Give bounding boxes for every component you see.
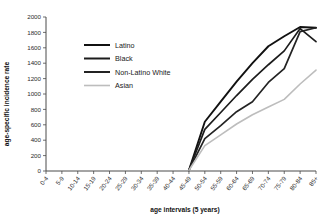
x-tick-label: 35-39: [145, 174, 161, 191]
x-tick-label: 10-14: [66, 174, 82, 191]
x-axis-ticks: 0-45-910-1415-1920-2425-2930-3435-3940-4…: [38, 171, 319, 192]
x-tick-label: 50-54: [193, 174, 209, 191]
x-tick-label: 45-49: [177, 174, 193, 191]
y-tick-label: 1400: [27, 59, 41, 66]
series-line-latino: [189, 27, 316, 170]
legend-label-latino: Latino: [115, 41, 135, 50]
x-tick-label: 15-19: [82, 174, 98, 191]
y-tick-label: 1600: [27, 44, 41, 51]
x-tick-label: 0-4: [38, 174, 49, 186]
x-tick-label: 65-69: [240, 174, 256, 191]
line-chart: 0200400600800100012001400160018002000 0-…: [0, 0, 329, 221]
y-tick-label: 400: [31, 136, 42, 143]
chart-legend: LatinoBlackNon-Latino WhiteAsian: [84, 41, 171, 91]
y-tick-label: 2000: [27, 13, 41, 20]
x-tick-label: 40-44: [161, 174, 177, 191]
x-axis-title: age intervals (5 years): [150, 206, 219, 214]
y-tick-label: 0: [38, 167, 42, 174]
x-tick-label: 20-24: [98, 174, 114, 191]
y-tick-label: 600: [31, 121, 42, 128]
series-line-asian: [189, 70, 316, 170]
x-tick-label: 80-84: [288, 174, 304, 191]
legend-label-non-latino-white: Non-Latino White: [115, 68, 171, 77]
x-tick-label: 25-29: [113, 174, 129, 191]
y-axis-ticks: 0200400600800100012001400160018002000: [27, 13, 46, 174]
y-axis-title: age-specific incidence rate: [3, 62, 11, 147]
y-tick-label: 1800: [27, 29, 41, 36]
y-tick-label: 800: [31, 106, 42, 113]
chart-container: 0200400600800100012001400160018002000 0-…: [0, 0, 329, 221]
x-tick-label: 55-59: [209, 174, 225, 191]
x-tick-label: 5-9: [54, 174, 65, 186]
x-tick-label: 70-74: [256, 174, 272, 191]
legend-label-black: Black: [115, 54, 133, 63]
y-tick-label: 1000: [27, 90, 41, 97]
x-tick-label: 30-34: [129, 174, 145, 191]
y-tick-label: 200: [31, 152, 42, 159]
series-line-black: [189, 29, 316, 171]
x-tick-label: 75-79: [272, 174, 288, 191]
x-tick-label: 60-64: [225, 174, 241, 191]
y-tick-label: 1200: [27, 75, 41, 82]
series-line-non-latino-white: [189, 28, 316, 170]
legend-label-asian: Asian: [115, 81, 133, 90]
x-tick-label: 85+: [307, 175, 319, 188]
data-series-group: [189, 27, 316, 170]
